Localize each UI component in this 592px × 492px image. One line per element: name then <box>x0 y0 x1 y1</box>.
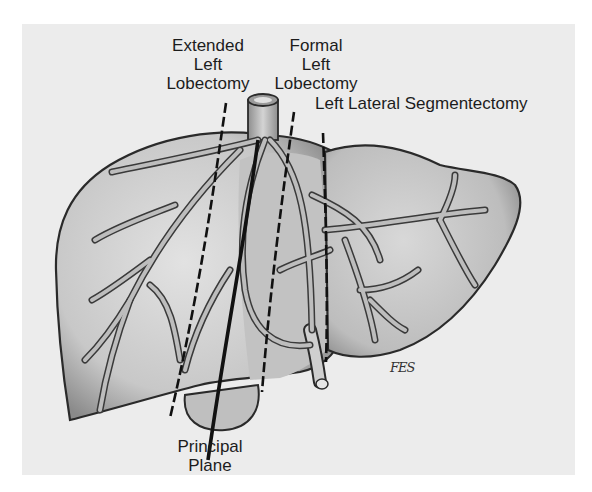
label-line: Left <box>148 55 268 74</box>
label-line: Formal <box>266 36 366 55</box>
vena-cava <box>248 94 278 140</box>
label-line: Extended <box>148 36 268 55</box>
label-line: Plane <box>150 456 270 475</box>
label-formal-left-lobectomy: Formal Left Lobectomy <box>266 36 366 93</box>
label-extended-left-lobectomy: Extended Left Lobectomy <box>148 36 268 93</box>
label-line: Left <box>266 55 366 74</box>
label-line: Left Lateral Segmentectomy <box>315 94 528 113</box>
label-left-lateral-segmentectomy: Left Lateral Segmentectomy <box>315 94 528 113</box>
label-line: Principal <box>150 437 270 456</box>
artist-signature: FES <box>390 360 414 375</box>
left-lobe-shape <box>325 146 520 357</box>
gallbladder-shape <box>185 385 259 430</box>
label-principal-plane: Principal Plane <box>150 437 270 475</box>
label-line: Lobectomy <box>148 74 268 93</box>
label-line: Lobectomy <box>266 74 366 93</box>
